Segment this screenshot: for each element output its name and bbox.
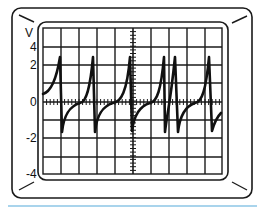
y-tick-label-0: 0 [30,96,37,108]
y-tick-label-neg4: -4 [26,168,37,180]
bevel-line-bottom-right [232,182,247,190]
bevel-line-bottom-left [19,182,34,190]
oscilloscope-figure [0,0,262,214]
bevel-line-top-right [232,16,247,23]
bevel-line-top-left [19,15,34,22]
y-axis-unit-label: V [25,27,33,39]
y-tick-label-2: 2 [30,59,37,71]
center-axes [43,28,222,174]
y-tick-label-4: 4 [30,41,37,53]
y-tick-label-neg2: -2 [26,132,37,144]
